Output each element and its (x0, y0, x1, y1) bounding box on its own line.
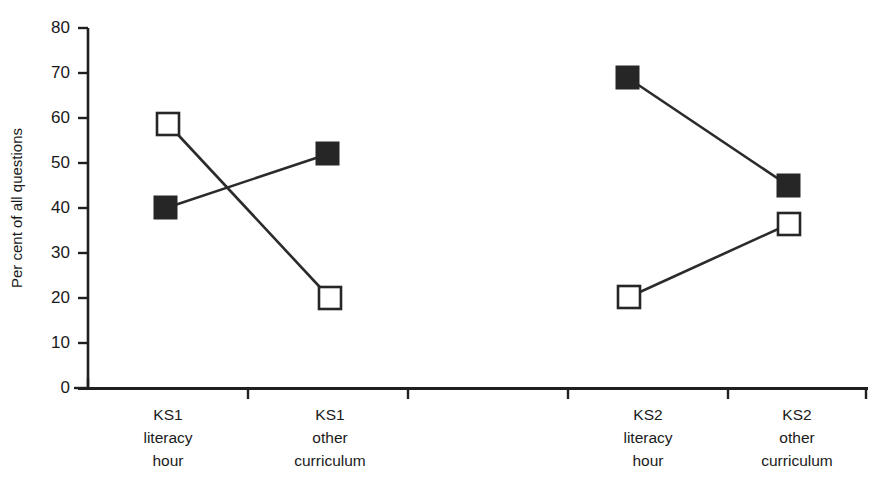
y-tick-label-50: 50 (51, 153, 70, 172)
x-label-line-3: hour (152, 452, 183, 469)
y-tick-label-60: 60 (51, 108, 70, 127)
y-tick-label-80: 80 (51, 18, 70, 37)
marker-open-ks1-literacy (157, 113, 179, 135)
marker-open-ks1-other (319, 287, 341, 309)
x-label-ks1-literacy-hour: KS1 literacy hour (143, 406, 192, 469)
x-label-line-1: KS1 (153, 406, 182, 423)
open-series-lines (168, 124, 789, 298)
marker-filled-ks2-other (777, 174, 800, 197)
x-label-line-2: other (779, 429, 814, 446)
marker-filled-ks1-other (316, 142, 339, 165)
marker-open-ks2-literacy (618, 286, 640, 308)
filled-series-segment-ks2 (628, 78, 789, 186)
x-label-line-3: curriculum (761, 452, 832, 469)
x-label-ks1-other-curriculum: KS1 other curriculum (294, 406, 365, 469)
chart-figure: 80 70 60 50 40 30 20 10 0 Per cent of al… (0, 0, 889, 487)
x-label-ks2-other-curriculum: KS2 other curriculum (761, 406, 832, 469)
x-label-line-1: KS2 (633, 406, 662, 423)
x-label-line-3: hour (632, 452, 663, 469)
x-label-line-3: curriculum (294, 452, 365, 469)
x-label-ks2-literacy-hour: KS2 literacy hour (623, 406, 672, 469)
y-tick-label-20: 20 (51, 288, 70, 307)
y-tick-group (74, 28, 88, 388)
marker-filled-ks2-literacy (616, 66, 639, 89)
x-label-line-1: KS2 (782, 406, 811, 423)
y-tick-label-40: 40 (51, 198, 70, 217)
filled-markers (154, 66, 800, 219)
y-tick-label-30: 30 (51, 243, 70, 262)
marker-filled-ks1-literacy (154, 196, 177, 219)
open-series-segment-ks1 (168, 124, 330, 298)
x-label-line-2: literacy (623, 429, 672, 446)
x-label-line-2: other (312, 429, 347, 446)
x-label-line-1: KS1 (315, 406, 344, 423)
y-axis-title: Per cent of all questions (8, 128, 25, 288)
y-tick-label-10: 10 (51, 333, 70, 352)
line-chart-svg: 80 70 60 50 40 30 20 10 0 Per cent of al… (0, 0, 889, 487)
open-series-segment-ks2 (629, 224, 789, 297)
y-tick-label-70: 70 (51, 63, 70, 82)
open-markers (157, 113, 800, 309)
filled-series-lines (166, 78, 789, 208)
marker-open-ks2-other (778, 213, 800, 235)
y-tick-label-0: 0 (61, 378, 70, 397)
filled-series-segment-ks1 (166, 154, 328, 208)
y-tick-labels: 80 70 60 50 40 30 20 10 0 (51, 18, 70, 397)
x-label-line-2: literacy (143, 429, 192, 446)
